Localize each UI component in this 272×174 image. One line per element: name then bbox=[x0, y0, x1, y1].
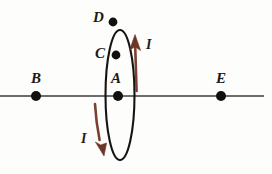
figure-canvas bbox=[0, 0, 272, 174]
point-label-D: D bbox=[93, 10, 104, 25]
physics-figure: D C A B E I I bbox=[0, 0, 272, 174]
point-label-B: B bbox=[31, 71, 41, 86]
current-arrow-up bbox=[130, 35, 141, 92]
point-dot-B bbox=[31, 91, 41, 101]
point-dot-E bbox=[216, 91, 226, 101]
point-dot-C bbox=[112, 51, 121, 60]
point-dot-D bbox=[109, 18, 118, 27]
point-dot-A bbox=[113, 91, 123, 101]
current-arrow-down bbox=[95, 104, 107, 156]
point-label-A: A bbox=[111, 71, 121, 86]
current-label-up: I bbox=[146, 38, 151, 52]
point-label-C: C bbox=[95, 46, 105, 61]
current-label-down: I bbox=[81, 132, 86, 146]
point-label-E: E bbox=[216, 71, 226, 86]
